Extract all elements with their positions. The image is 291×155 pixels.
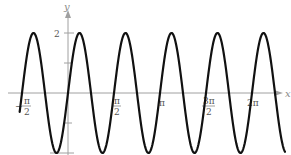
svg-text:π: π <box>114 96 120 106</box>
svg-text:π: π <box>24 96 30 106</box>
x-axis-label: x <box>285 88 291 99</box>
svg-text:2: 2 <box>24 107 30 117</box>
svg-text:2: 2 <box>206 107 212 117</box>
x-tick-two-pi: 2π <box>247 98 259 108</box>
sine-chart: x y 2 − π 2 π 2 π 3π <box>0 0 291 155</box>
y-axis-label: y <box>63 1 70 12</box>
y-tick-label-2: 2 <box>54 29 60 39</box>
x-tick-neg-half-pi: − π 2 <box>15 96 31 117</box>
svg-text:2: 2 <box>114 107 120 117</box>
